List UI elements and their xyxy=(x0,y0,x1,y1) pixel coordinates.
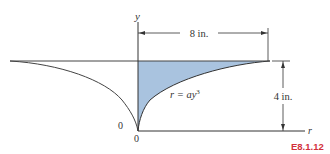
shaded-area xyxy=(138,61,270,131)
arrow-right-icon xyxy=(261,31,267,35)
arrow-down-icon xyxy=(281,124,285,130)
arrow-up-icon xyxy=(281,62,285,68)
r-axis-label: r xyxy=(308,125,312,136)
arrow-left-icon xyxy=(139,31,145,35)
origin-r-label: 0 xyxy=(134,133,139,144)
diagram-canvas: y r 0 0 8 in. 4 in. r = ay3 E8.1.12 xyxy=(0,0,330,154)
origin-y-label: 0 xyxy=(118,120,123,131)
equation-exponent: 3 xyxy=(196,88,200,96)
width-label: 8 in. xyxy=(190,28,209,39)
y-axis-label: y xyxy=(134,10,140,22)
equation-lhs: r = ay xyxy=(170,89,197,100)
figure-id: E8.1.12 xyxy=(291,141,324,152)
height-label: 4 in. xyxy=(274,91,293,102)
equation-label: r = ay3 xyxy=(170,88,200,100)
